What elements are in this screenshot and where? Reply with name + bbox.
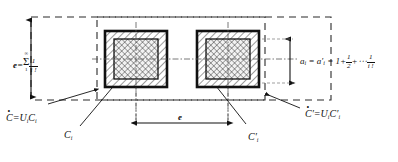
C-prime-symbol: C xyxy=(305,108,312,119)
Ci-subscript: i xyxy=(71,135,73,141)
union-C-label: ∘C=UiCi xyxy=(6,112,37,124)
e-formula-label: e=∞Σ11i ! xyxy=(13,51,38,74)
a-equals-2: = xyxy=(327,56,333,66)
C-member-subscript: i xyxy=(35,118,37,124)
C-prime-with-ring: ∘C xyxy=(305,108,312,119)
Ciprime-subscript: i xyxy=(257,137,259,143)
a-dimension-line-vertical xyxy=(262,39,293,83)
a-equals-1: = xyxy=(308,56,314,66)
a-ellipsis: ⋯ xyxy=(358,56,367,66)
union-C-prime-label: ∘C′=UiC′i xyxy=(305,108,340,120)
a-formula-label: ai = a′i = 1+12+⋯1i ! xyxy=(300,54,375,70)
C-symbol: C xyxy=(6,112,13,123)
cell-label-Ci-prime: C′i xyxy=(248,131,259,143)
diagram-canvas xyxy=(0,0,398,162)
cell-label-Ci: Ci xyxy=(64,129,72,141)
Ci-symbol: C xyxy=(64,129,71,140)
C-with-ring: ∘C xyxy=(6,112,13,123)
a-term-3-fraction: 1i ! xyxy=(367,54,375,70)
union-symbol-prime: U xyxy=(321,108,328,119)
diagram-root: e=∞Σ11i ! ai = a′i = 1+12+⋯1i ! e ∘C=UiC… xyxy=(0,0,398,162)
a-lhs-subscript: i xyxy=(305,60,307,66)
C-member: C xyxy=(28,112,35,123)
leader-to-Cring xyxy=(48,90,95,104)
Ciprime-symbol: C xyxy=(248,131,255,142)
e-term-fraction: 1i ! xyxy=(29,58,37,74)
e-dimension-bottom-label: e xyxy=(178,112,182,122)
a-rhs-subscript: i xyxy=(323,60,325,66)
leader-lines xyxy=(48,86,300,126)
union-symbol: U xyxy=(19,112,26,123)
e-term-denominator: i ! xyxy=(29,67,37,74)
leader-to-Ci xyxy=(80,88,112,126)
leader-to-Ciprime xyxy=(216,86,246,124)
C-prime-equals: = xyxy=(314,108,321,119)
a-term-3-numerator: 1 xyxy=(367,54,375,61)
leader-to-Cprimering xyxy=(266,94,300,108)
ring-accent-prime-icon: ∘ xyxy=(306,102,310,109)
ring-accent-icon: ∘ xyxy=(7,106,11,113)
a-term-3-denominator: i ! xyxy=(367,63,375,70)
e-dimension-extensions xyxy=(136,88,228,127)
e-term-numerator: 1 xyxy=(29,58,37,65)
C-prime-member-subscript: i xyxy=(338,114,340,120)
